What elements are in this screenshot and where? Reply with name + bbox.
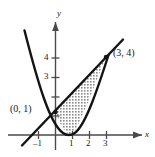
y-tick-label-4: 4	[44, 53, 49, 62]
point-label-3-4: (3, 4)	[113, 48, 135, 58]
y-axis-arrow	[52, 22, 59, 31]
x-axis-arrow	[133, 132, 142, 139]
intersection-dot-upper	[104, 55, 108, 59]
x-tick-label-1: 1	[69, 139, 74, 148]
y-tick-label-3: 3	[44, 72, 49, 81]
point-label-0-1: (0, 1)	[10, 104, 32, 114]
graph-figure: y x 4 3 –1 1 2 3 (0, 1) (3, 4)	[0, 0, 155, 157]
x-tick-label-3: 3	[103, 139, 108, 148]
x-tick-label-2: 2	[86, 139, 91, 148]
intersection-dot-lower	[53, 110, 57, 114]
x-tick-label-minus1: –1	[33, 139, 42, 148]
y-axis-label: y	[57, 9, 61, 18]
x-axis-label: x	[145, 130, 149, 139]
shaded-region-under-parabola	[56, 57, 107, 133]
plot-canvas	[0, 0, 155, 157]
